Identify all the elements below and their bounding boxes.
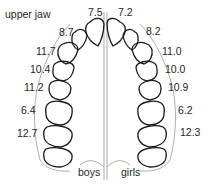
tooth-left-4 xyxy=(53,61,74,81)
left-teeth xyxy=(44,18,104,167)
diagram-title: upper jaw xyxy=(5,9,51,20)
right-value-6: 6.2 xyxy=(178,105,193,116)
tooth-right-5 xyxy=(139,80,161,100)
tooth-left-1 xyxy=(86,18,104,46)
right-teeth xyxy=(107,18,166,167)
tooth-left-8 xyxy=(44,148,73,167)
left-value-3: 11.7 xyxy=(36,46,56,57)
right-value-4: 10.0 xyxy=(165,64,185,75)
tooth-right-7 xyxy=(138,126,167,147)
left-value-2: 8.7 xyxy=(59,27,74,38)
tooth-right-8 xyxy=(138,148,167,167)
tooth-left-5 xyxy=(49,80,71,100)
tooth-left-2 xyxy=(72,29,87,50)
right-value-5: 10.9 xyxy=(168,82,188,93)
left-value-6: 6.4 xyxy=(21,105,36,116)
midline xyxy=(104,12,107,180)
left-value-5: 11.2 xyxy=(24,82,44,93)
left-value-7: 12.7 xyxy=(17,128,37,139)
jaw-illustration xyxy=(0,0,210,191)
boys-label: boys xyxy=(78,167,100,178)
tooth-right-1 xyxy=(107,18,125,46)
right-value-2: 8.2 xyxy=(146,26,161,37)
tooth-left-6 xyxy=(46,101,73,125)
upper-jaw-diagram: upper jaw 7.5 8.7 11.7 10.4 11.2 6.4 12.… xyxy=(0,0,210,191)
tooth-right-4 xyxy=(136,61,157,81)
right-value-7: 12.3 xyxy=(180,127,200,138)
girls-label: girls xyxy=(121,167,140,178)
left-value-1: 7.5 xyxy=(88,7,103,18)
tooth-right-6 xyxy=(138,101,165,125)
right-value-1: 7.2 xyxy=(118,7,133,18)
right-value-3: 11.0 xyxy=(162,46,182,57)
left-value-4: 10.4 xyxy=(30,64,50,75)
tooth-left-7 xyxy=(44,126,73,147)
